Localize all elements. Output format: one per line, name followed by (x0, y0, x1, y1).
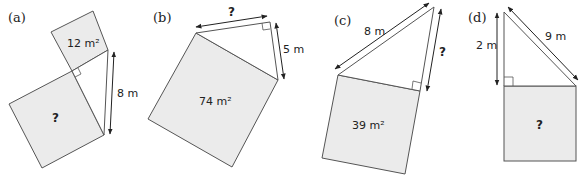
pythagoras-figure: (a) 12 m² ? 8 m (b) ? 5 m 74 m² (c) 8 m … (0, 0, 586, 179)
panel-d-leg: 2 m (476, 39, 497, 52)
panel-d-label: (d) (468, 10, 486, 25)
panel-b-label: (b) (153, 10, 171, 25)
panel-a: (a) 12 m² ? 8 m (8, 10, 138, 168)
panel-c-unknown-side: ? (439, 45, 446, 59)
panel-d-unknown-area: ? (536, 118, 543, 132)
panel-a-unknown-area: ? (52, 111, 59, 125)
panel-a-dimension-arrow (110, 52, 114, 134)
panel-c: (c) 8 m ? 39 m² (322, 3, 446, 174)
panel-c-hypotenuse: 8 m (364, 25, 385, 38)
panel-d-hypotenuse: 9 m (545, 30, 566, 43)
panel-a-side-length: 8 m (117, 87, 138, 100)
panel-c-label: (c) (334, 13, 351, 28)
panel-d: (d) 2 m 9 m ? (468, 7, 578, 161)
panel-a-small-area: 12 m² (67, 37, 100, 50)
panel-b: (b) ? 5 m 74 m² (148, 5, 304, 167)
panel-b-side-length: 5 m (283, 43, 304, 56)
panel-d-triangle (504, 12, 576, 86)
panel-b-square-area: 74 m² (199, 95, 232, 108)
panel-c-square-area: 39 m² (352, 119, 385, 132)
panel-b-unknown-side: ? (228, 5, 235, 19)
panel-a-label: (a) (8, 10, 26, 25)
